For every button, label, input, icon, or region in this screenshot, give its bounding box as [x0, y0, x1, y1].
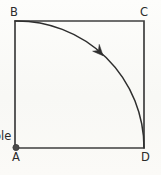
vertex-label-a: A	[12, 152, 20, 164]
vertex-label-c: C	[140, 7, 148, 19]
geometry-figure: B C A D ole	[0, 0, 161, 175]
pole-label: ole	[0, 131, 11, 143]
vertex-label-b: B	[10, 7, 18, 19]
square-outline	[15, 21, 144, 148]
figure-canvas	[0, 0, 161, 175]
vertex-label-d: D	[141, 152, 150, 164]
quarter-circle-arc	[15, 21, 144, 148]
